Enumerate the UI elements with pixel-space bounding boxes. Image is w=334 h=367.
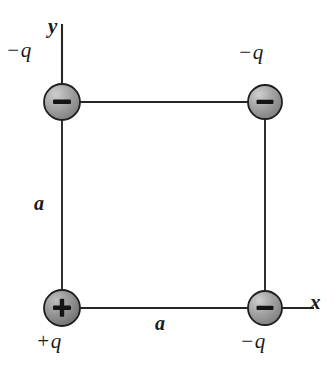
charge-sphere-top-right — [248, 85, 282, 119]
charge-sphere-top-left — [44, 84, 80, 120]
y-axis-label: y — [48, 16, 57, 37]
charge-label-bottom-right: −q — [240, 331, 266, 352]
charge-label-top-right: −q — [238, 42, 264, 63]
charge-label-bottom-left: +q — [36, 331, 62, 352]
diagram-canvas — [0, 0, 334, 367]
charge-sphere-bottom-right — [248, 291, 282, 325]
side-length-label-left: a — [34, 193, 44, 213]
charge-square-figure: y x −q −q +q −q a a — [0, 0, 334, 367]
charge-label-top-left: −q — [6, 40, 32, 61]
x-axis-label: x — [310, 292, 321, 313]
charge-sphere-bottom-left — [44, 290, 80, 326]
side-length-label-bottom: a — [155, 313, 165, 333]
